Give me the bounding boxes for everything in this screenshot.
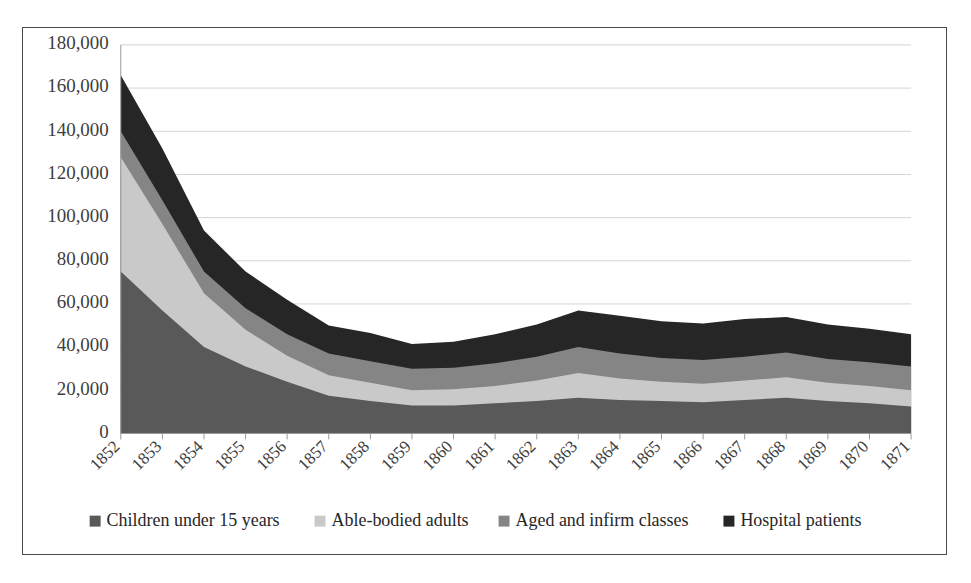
x-tick-label: 1860 <box>419 437 456 474</box>
chart-legend: Children under 15 yearsAble-bodied adult… <box>90 510 862 530</box>
y-tick-label: 100,000 <box>47 205 109 226</box>
x-tick-label: 1859 <box>377 437 414 474</box>
x-tick-label: 1856 <box>253 437 290 474</box>
y-tick-label: 160,000 <box>47 75 109 96</box>
legend-swatch-3 <box>723 516 734 527</box>
x-tick-label: 1869 <box>793 437 830 474</box>
legend-label-0: Children under 15 years <box>107 510 280 530</box>
legend-swatch-1 <box>315 516 326 527</box>
y-tick-label: 180,000 <box>47 32 109 53</box>
y-tick-label: 140,000 <box>47 119 109 140</box>
x-tick-label: 1853 <box>128 437 165 474</box>
x-tick-label: 1855 <box>211 437 248 474</box>
y-tick-label: 20,000 <box>57 378 109 399</box>
legend-swatch-0 <box>90 516 101 527</box>
x-tick-label: 1865 <box>627 437 664 474</box>
chart-canvas: 020,00040,00060,00080,000100,000120,0001… <box>23 28 946 554</box>
legend-swatch-2 <box>499 516 510 527</box>
y-tick-label: 80,000 <box>57 248 109 269</box>
x-tick-label: 1871 <box>876 437 913 474</box>
x-tick-label: 1852 <box>86 437 123 474</box>
y-tick-label: 120,000 <box>47 162 109 183</box>
stacked-area-chart: 020,00040,00060,00080,000100,000120,0001… <box>23 28 946 554</box>
x-tick-label: 1861 <box>461 437 498 474</box>
legend-label-1: Able-bodied adults <box>332 510 469 530</box>
x-tick-label: 1862 <box>502 437 539 474</box>
chart-frame: 020,00040,00060,00080,000100,000120,0001… <box>22 27 947 555</box>
legend-label-2: Aged and infirm classes <box>516 510 689 530</box>
x-axis-tick-labels: 1852185318541855185618571858185918601861… <box>86 436 914 474</box>
x-tick-label: 1868 <box>752 437 789 474</box>
x-tick-label: 1854 <box>169 436 207 474</box>
x-tick-label: 1867 <box>710 437 747 474</box>
x-tick-label: 1858 <box>336 437 373 474</box>
y-tick-label: 60,000 <box>57 291 109 312</box>
legend-label-3: Hospital patients <box>740 510 861 530</box>
x-tick-label: 1866 <box>669 437 706 474</box>
y-tick-label: 40,000 <box>57 334 109 355</box>
x-tick-label: 1863 <box>544 437 581 474</box>
x-tick-label: 1864 <box>585 436 623 474</box>
area-series-group <box>121 75 911 433</box>
y-axis-tick-labels: 020,00040,00060,00080,000100,000120,0001… <box>47 32 109 442</box>
x-tick-label: 1870 <box>835 437 872 474</box>
x-tick-label: 1857 <box>294 437 331 474</box>
